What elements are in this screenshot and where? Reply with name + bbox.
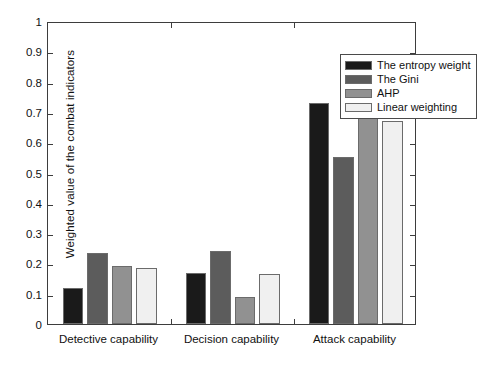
y-tick-mark [410, 296, 415, 297]
legend-label: The entropy weight [377, 60, 471, 71]
x-category-label: Attack capability [313, 333, 396, 345]
bar [309, 103, 330, 324]
bar [333, 157, 354, 324]
y-tick-label: 0.6 [26, 138, 42, 150]
bar [259, 274, 280, 324]
y-tick-mark [410, 205, 415, 206]
legend-color-swatch [345, 75, 372, 84]
bar [112, 266, 133, 324]
legend-item[interactable]: Linear weighting [345, 100, 471, 114]
legend-color-swatch [345, 89, 372, 98]
x-tick-mark [294, 319, 295, 324]
x-tick-mark [171, 319, 172, 324]
y-tick-label: 0.2 [26, 260, 42, 272]
y-tick-mark [410, 235, 415, 236]
y-tick-mark [410, 265, 415, 266]
x-category-label: Detective capability [59, 333, 158, 345]
bar [63, 288, 84, 324]
y-tick-mark [48, 205, 53, 206]
x-tick-mark [294, 23, 295, 28]
x-category-label: Decision capability [184, 333, 279, 345]
y-axis-label: Weighted value of the combat indicators [64, 4, 76, 304]
bar [136, 268, 157, 324]
y-tick-label: 1 [36, 17, 42, 29]
legend-color-swatch [345, 103, 372, 112]
legend-item[interactable]: The entropy weight [345, 58, 471, 72]
y-tick-mark [48, 296, 53, 297]
legend-label: AHP [377, 88, 400, 99]
y-tick-mark [48, 84, 53, 85]
legend-label: Linear weighting [377, 102, 457, 113]
y-tick-label: 0.7 [26, 108, 42, 120]
y-tick-mark [48, 235, 53, 236]
y-tick-label: 0.3 [26, 229, 42, 241]
legend-item[interactable]: AHP [345, 86, 471, 100]
y-tick-mark [48, 175, 53, 176]
y-tick-mark [410, 144, 415, 145]
y-tick-label: 0.5 [26, 169, 42, 181]
y-tick-label: 0.8 [26, 78, 42, 90]
chart-legend: The entropy weightThe GiniAHPLinear weig… [340, 54, 477, 119]
y-tick-mark [48, 53, 53, 54]
x-tick-mark [171, 23, 172, 28]
bar [186, 273, 207, 325]
y-tick-mark [48, 114, 53, 115]
y-tick-label: 0.1 [26, 290, 42, 302]
y-tick-mark [48, 265, 53, 266]
y-tick-label: 0 [36, 320, 42, 332]
plot-area: 00.10.20.30.40.50.60.70.80.91 Weighted v… [47, 22, 416, 325]
legend-label: The Gini [377, 74, 419, 85]
bar [210, 251, 231, 324]
y-tick-label: 0.4 [26, 199, 42, 211]
bar [87, 253, 108, 324]
bar [382, 121, 403, 324]
bar [358, 100, 379, 324]
y-tick-mark [410, 175, 415, 176]
y-tick-mark [48, 144, 53, 145]
legend-color-swatch [345, 61, 372, 70]
legend-item[interactable]: The Gini [345, 72, 471, 86]
bar [235, 297, 256, 324]
y-tick-label: 0.9 [26, 48, 42, 60]
